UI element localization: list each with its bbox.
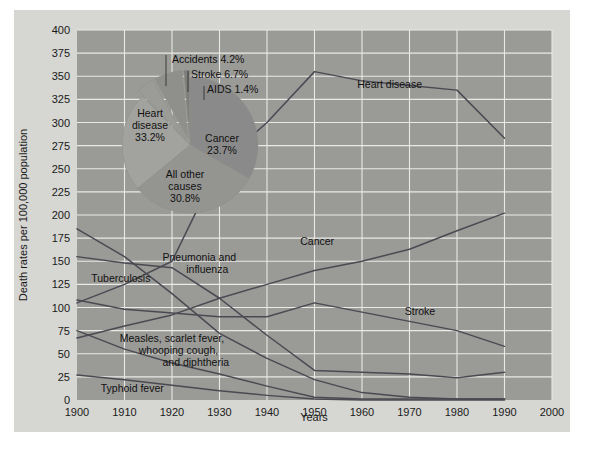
pie-label-cancer-line1: Cancer xyxy=(205,132,239,144)
x-axis-title: Years xyxy=(300,411,328,423)
y-tick-label: 200 xyxy=(52,209,70,221)
series-label: whooping cough, xyxy=(138,344,218,356)
series-label: Pneumonia and xyxy=(163,251,237,263)
series-label: Measles, scarlet fever, xyxy=(120,332,224,344)
series-label: Stroke xyxy=(405,305,436,317)
y-tick-label: 125 xyxy=(52,278,70,290)
x-tick-label: 1900 xyxy=(65,406,89,418)
callout-aids: AIDS 1.4% xyxy=(207,83,258,95)
y-tick-label: 225 xyxy=(52,186,70,198)
series-label: Cancer xyxy=(300,235,334,247)
x-tick-label: 1980 xyxy=(445,406,469,418)
y-tick-label: 275 xyxy=(52,140,70,152)
y-tick-label: 375 xyxy=(52,47,70,59)
pie-label-heart-line1: Heart xyxy=(137,107,163,119)
y-tick-label: 50 xyxy=(58,348,70,360)
pie-label-other-line2: causes xyxy=(168,180,201,192)
x-tick-label: 1990 xyxy=(492,406,516,418)
series-label: Typhoid fever xyxy=(101,382,165,394)
y-tick-label: 350 xyxy=(52,70,70,82)
callout-stroke: Stroke 6.7% xyxy=(191,68,248,80)
pie-label-other-line3: 30.8% xyxy=(170,192,200,204)
series-label: Heart disease xyxy=(357,78,422,90)
x-tick-label: 1960 xyxy=(350,406,374,418)
series-label: and diphtheria xyxy=(163,356,230,368)
series-label: Tuberculosis xyxy=(91,272,150,284)
y-tick-label: 0 xyxy=(64,394,70,406)
x-tick-label: 2000 xyxy=(540,406,564,418)
pie-label-heart-line2: disease xyxy=(132,119,168,131)
pie-label-heart-line3: 33.2% xyxy=(135,131,165,143)
x-tick-label: 1920 xyxy=(160,406,184,418)
y-tick-label: 100 xyxy=(52,302,70,314)
y-axis-tick-labels: 0255075100125150175200225250275300325350… xyxy=(52,24,70,406)
pie-label-other-line1: All other xyxy=(166,168,205,180)
y-tick-label: 325 xyxy=(52,93,70,105)
y-tick-label: 25 xyxy=(58,371,70,383)
series-label: influenza xyxy=(186,263,228,275)
y-tick-label: 175 xyxy=(52,232,70,244)
x-tick-label: 1910 xyxy=(112,406,136,418)
y-tick-label: 300 xyxy=(52,117,70,129)
y-tick-label: 250 xyxy=(52,163,70,175)
x-tick-label: 1970 xyxy=(397,406,421,418)
y-tick-label: 400 xyxy=(52,24,70,36)
y-tick-label: 150 xyxy=(52,255,70,267)
y-axis-title: Death rates per 100,000 population xyxy=(17,129,29,301)
callout-accidents: Accidents 4.2% xyxy=(172,53,244,65)
pie-label-cancer-line2: 23.7% xyxy=(207,144,237,156)
y-tick-label: 75 xyxy=(58,325,70,337)
x-tick-label: 1930 xyxy=(207,406,231,418)
x-tick-label: 1940 xyxy=(255,406,279,418)
chart-canvas: 0255075100125150175200225250275300325350… xyxy=(0,0,590,449)
